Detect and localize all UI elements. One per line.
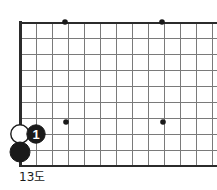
stone-move-number-1: 1 [32, 127, 39, 142]
star-point-lower-left [63, 119, 69, 125]
board-stones: 1 [10, 125, 45, 162]
board-edge-lines [19, 21, 217, 167]
board-vertical-lines [37, 22, 213, 166]
go-board: 1 [0, 0, 217, 172]
star-point-lower-right [160, 119, 166, 125]
star-point-upper-left [62, 19, 68, 25]
star-point-upper-right [159, 19, 165, 25]
go-diagram-figure: 1 13도 [0, 0, 217, 190]
board-star-points [62, 19, 166, 125]
black-stone-corner [10, 142, 30, 162]
figure-caption: 13도 [19, 170, 45, 185]
board-horizontal-lines [20, 39, 217, 151]
